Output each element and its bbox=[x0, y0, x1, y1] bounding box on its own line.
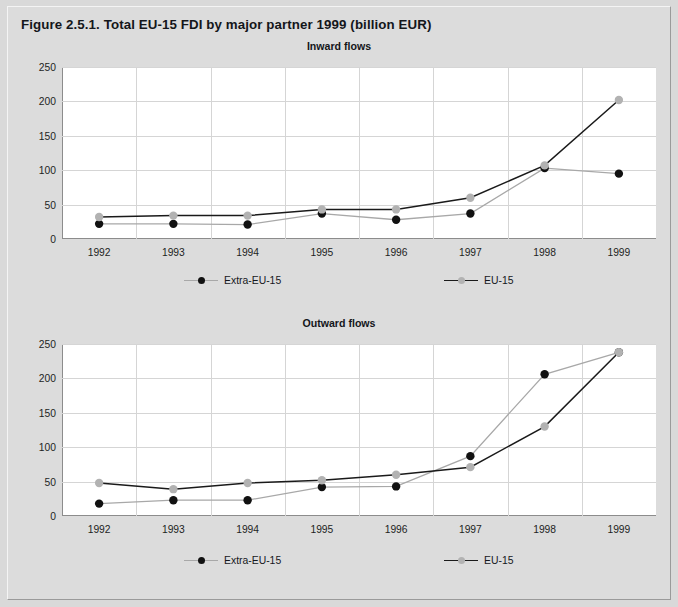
data-point-marker bbox=[243, 211, 251, 219]
y-axis-tick-label: 150 bbox=[16, 407, 56, 418]
legend-outward: Extra-EU-15 EU-15 bbox=[14, 555, 664, 573]
y-axis-tick-label: 50 bbox=[16, 476, 56, 487]
plot-area-outward bbox=[62, 344, 656, 516]
data-point-marker bbox=[243, 220, 251, 228]
data-point-marker bbox=[392, 216, 400, 224]
y-axis-tick-label: 0 bbox=[16, 511, 56, 522]
legend-label-extra-eu-15: Extra-EU-15 bbox=[224, 275, 281, 286]
legend-label-eu-15: EU-15 bbox=[484, 555, 513, 566]
x-axis-tick-label: 1999 bbox=[607, 524, 630, 535]
y-axis-tick-label: 250 bbox=[16, 62, 56, 73]
x-axis-tick-label: 1992 bbox=[88, 247, 111, 258]
y-axis-tick-label: 100 bbox=[16, 442, 56, 453]
legend-label-extra-eu-15: Extra-EU-15 bbox=[224, 555, 281, 566]
chart-title-outward: Outward flows bbox=[14, 317, 664, 329]
data-point-marker bbox=[615, 348, 623, 356]
data-point-marker bbox=[392, 205, 400, 213]
data-point-marker bbox=[169, 211, 177, 219]
plot-area-inward bbox=[62, 67, 656, 239]
legend-label-eu-15: EU-15 bbox=[484, 275, 513, 286]
figure-container: Figure 2.5.1. Total EU-15 FDI by major p… bbox=[0, 0, 678, 607]
legend-swatch-eu-15 bbox=[444, 276, 478, 286]
data-point-marker bbox=[540, 161, 548, 169]
series-line-eu-15 bbox=[99, 100, 619, 217]
chart-title-inward: Inward flows bbox=[14, 40, 664, 52]
data-point-marker bbox=[466, 194, 474, 202]
data-point-marker bbox=[540, 422, 548, 430]
legend-entry-eu-15: EU-15 bbox=[444, 275, 513, 286]
legend-swatch-extra-eu-15 bbox=[184, 276, 218, 286]
x-axis-tick-label: 1998 bbox=[533, 524, 556, 535]
x-axis-tick-label: 1993 bbox=[162, 247, 185, 258]
y-axis-tick-label: 100 bbox=[16, 165, 56, 176]
data-point-marker bbox=[169, 220, 177, 228]
data-point-marker bbox=[615, 96, 623, 104]
data-point-marker bbox=[95, 499, 103, 507]
data-point-marker bbox=[615, 169, 623, 177]
data-point-marker bbox=[466, 452, 474, 460]
x-axis-tick-label: 1995 bbox=[310, 247, 333, 258]
series-layer bbox=[62, 344, 656, 516]
x-axis-tick-label: 1996 bbox=[385, 524, 408, 535]
y-axis-tick-label: 200 bbox=[16, 96, 56, 107]
x-axis-tick-label: 1996 bbox=[385, 247, 408, 258]
legend-swatch-eu-15 bbox=[444, 556, 478, 566]
x-axis-tick-label: 1993 bbox=[162, 524, 185, 535]
y-axis-tick-label: 200 bbox=[16, 373, 56, 384]
legend-entry-eu-15: EU-15 bbox=[444, 555, 513, 566]
x-axis-tick-label: 1992 bbox=[88, 524, 111, 535]
data-point-marker bbox=[466, 209, 474, 217]
data-point-marker bbox=[243, 479, 251, 487]
chart-panel-inward: Inward flows 050100150200250199219931994… bbox=[14, 40, 664, 312]
x-axis-tick-label: 1998 bbox=[533, 247, 556, 258]
y-axis-tick-label: 50 bbox=[16, 199, 56, 210]
legend-marker-icon bbox=[458, 277, 465, 284]
x-axis-tick-label: 1999 bbox=[607, 247, 630, 258]
x-axis-tick-label: 1994 bbox=[236, 247, 259, 258]
plot-wrap-inward: 0501001502002501992199319941995199619971… bbox=[14, 60, 664, 255]
chart-panel-outward: Outward flows 05010015020025019921993199… bbox=[14, 317, 664, 592]
x-axis-tick-label: 1997 bbox=[459, 247, 482, 258]
legend-entry-extra-eu-15: Extra-EU-15 bbox=[184, 275, 281, 286]
y-axis-tick-label: 150 bbox=[16, 130, 56, 141]
legend-marker-icon bbox=[198, 557, 205, 564]
data-point-marker bbox=[169, 485, 177, 493]
data-point-marker bbox=[243, 496, 251, 504]
y-axis-tick-label: 250 bbox=[16, 339, 56, 350]
data-point-marker bbox=[95, 213, 103, 221]
series-layer bbox=[62, 67, 656, 239]
data-point-marker bbox=[318, 205, 326, 213]
legend-inward: Extra-EU-15 EU-15 bbox=[14, 275, 664, 293]
x-axis-tick-label: 1997 bbox=[459, 524, 482, 535]
x-axis-tick-label: 1994 bbox=[236, 524, 259, 535]
x-axis-tick-label: 1995 bbox=[310, 524, 333, 535]
figure-title: Figure 2.5.1. Total EU-15 FDI by major p… bbox=[21, 17, 431, 32]
legend-entry-extra-eu-15: Extra-EU-15 bbox=[184, 555, 281, 566]
data-point-marker bbox=[392, 471, 400, 479]
data-point-marker bbox=[540, 370, 548, 378]
legend-marker-icon bbox=[458, 557, 465, 564]
data-point-marker bbox=[318, 476, 326, 484]
data-point-marker bbox=[169, 496, 177, 504]
data-point-marker bbox=[392, 482, 400, 490]
data-point-marker bbox=[95, 479, 103, 487]
legend-swatch-extra-eu-15 bbox=[184, 556, 218, 566]
plot-wrap-outward: 0501001502002501992199319941995199619971… bbox=[14, 337, 664, 532]
data-point-marker bbox=[466, 463, 474, 471]
y-axis-tick-label: 0 bbox=[16, 234, 56, 245]
legend-marker-icon bbox=[198, 277, 205, 284]
